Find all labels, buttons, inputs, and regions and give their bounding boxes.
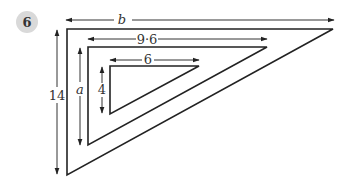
label-a: a	[76, 82, 84, 97]
question-number: 6	[22, 15, 31, 30]
dimension-arrow-4: 4	[98, 67, 106, 113]
label-14: 14	[49, 88, 66, 103]
dimension-arrow-6: 6	[110, 52, 199, 67]
dimension-arrow-a: a	[76, 48, 84, 145]
outer-triangle	[67, 29, 333, 175]
dimension-arrow-b: b	[66, 12, 334, 27]
label-4: 4	[98, 82, 106, 97]
inner-triangle	[110, 66, 199, 114]
dimension-arrow-14: 14	[49, 30, 66, 174]
middle-triangle	[88, 47, 267, 145]
label-9-6: 9·6	[137, 32, 158, 47]
label-6: 6	[144, 52, 152, 67]
label-b: b	[118, 12, 126, 27]
dimension-arrow-9-6: 9·6	[88, 32, 267, 47]
question-number-badge: 6	[16, 11, 38, 33]
similar-triangles-diagram: 6 b 9·6 6 14 a 4	[0, 0, 354, 186]
